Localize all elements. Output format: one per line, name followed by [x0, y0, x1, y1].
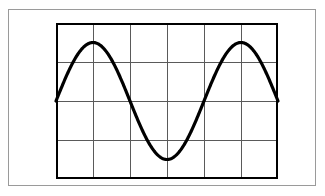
plot-svg [56, 23, 278, 179]
sine-wave-figure [0, 0, 325, 196]
plot-area [56, 23, 278, 179]
